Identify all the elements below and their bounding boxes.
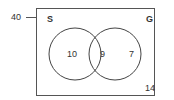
set-s-only-value: 10 xyxy=(67,49,77,59)
set-s-label: S xyxy=(47,14,53,24)
venn-diagram: 40 S G 10 9 7 14 xyxy=(0,0,174,100)
outside-value: 14 xyxy=(145,83,155,93)
universal-set-box xyxy=(37,9,155,96)
universal-total-label: 40 xyxy=(11,12,21,22)
intersection-value: 9 xyxy=(100,49,105,59)
set-g-label: G xyxy=(146,14,153,24)
set-g-only-value: 7 xyxy=(129,49,134,59)
